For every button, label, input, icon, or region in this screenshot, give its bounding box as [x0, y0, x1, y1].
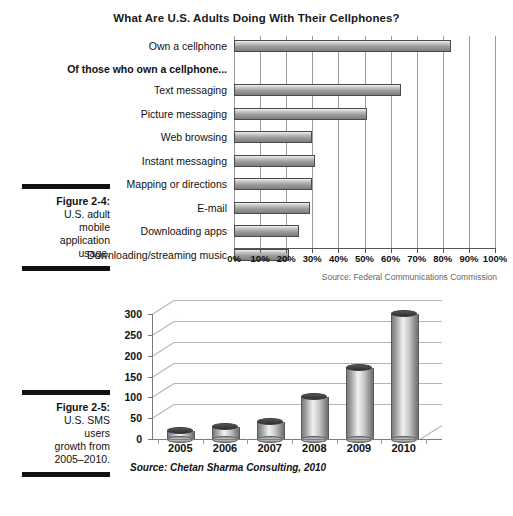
caption-rule-bottom: [22, 472, 110, 477]
chart2-x-tick: [247, 439, 248, 444]
chart1-source: Source: Federal Communications Commissio…: [322, 272, 497, 282]
chart2-y-tick: [148, 314, 152, 315]
chart2-x-label: 2008: [302, 442, 326, 454]
figure-2-5-line-0: U.S. SMS: [14, 414, 110, 427]
figure-2-4-line-0: U.S. adult: [14, 208, 110, 221]
chart2-x-tick: [426, 439, 427, 444]
chart2-bar: [257, 422, 285, 440]
chart2-bar: [301, 397, 329, 439]
chart1-tick-label: 40%: [329, 253, 348, 264]
chart1-x-ticks: 0%10%20%30%40%50%60%70%80%90%100%: [234, 248, 495, 260]
chart2-x-axis-line: [152, 439, 442, 440]
chart1-category-label: Web browsing: [161, 127, 227, 148]
chart2-y-axis-line: [152, 314, 153, 439]
chart2-x-label: 2006: [213, 442, 237, 454]
chart1-tick-label: 20%: [277, 253, 296, 264]
chart1-category-label: Own a cellphone: [149, 36, 227, 57]
chart1-title: What Are U.S. Adults Doing With Their Ce…: [0, 12, 513, 24]
figure-2-5-number: Figure 2-5:: [14, 401, 110, 414]
chart1-bar-row: Mapping or directions: [234, 174, 495, 195]
chart2-source: Source: Chetan Sharma Consulting, 2010: [130, 462, 326, 473]
figure-2-5-line-1: users: [14, 427, 110, 440]
chart2-y-tick: [148, 397, 152, 398]
chart1-bar-row: E-mail: [234, 198, 495, 219]
chart2-y-tick-label: 250: [124, 329, 148, 341]
chart1-section-row: Of those who own a cellphone...: [234, 59, 495, 80]
chart2-plot-area: [152, 314, 442, 439]
figure-2-4-number: Figure 2-4:: [14, 195, 110, 208]
chart1-tick-label: 80%: [433, 253, 452, 264]
chart1-category-label: Picture messaging: [141, 104, 227, 125]
chart1-gridline: [495, 36, 496, 248]
chart1-tick-label: 70%: [407, 253, 426, 264]
chart1-section-label: Of those who own a cellphone...: [67, 59, 227, 80]
chart2-x-tick: [337, 439, 338, 444]
chart2-x-label: 2005: [168, 442, 192, 454]
chart2-x-tick: [292, 439, 293, 444]
chart2-x-label: 2010: [391, 442, 415, 454]
chart1-bar-row: Instant messaging: [234, 151, 495, 172]
chart1-bar: [234, 202, 310, 214]
chart1-tick-label: 90%: [459, 253, 478, 264]
chart2-bar: [391, 314, 419, 439]
chart1-tick-label: 100%: [483, 253, 507, 264]
chart1-tick-label: 0%: [227, 253, 241, 264]
figure-2-4-caption: Figure 2-4: U.S. adult mobile applicatio…: [14, 184, 110, 271]
chart2-bar-cap: [257, 418, 283, 425]
chart2-x-tick: [381, 439, 382, 444]
chart2-bar-cap: [391, 310, 417, 317]
chart1-bar: [234, 108, 367, 120]
chart1-tick-label: 50%: [355, 253, 374, 264]
chart2-bar-cap: [301, 393, 327, 400]
chart2-x-label: 2009: [347, 442, 371, 454]
figure-2-5-line-3: 2005–2010.: [14, 453, 110, 466]
chart2-bar-cap: [167, 427, 193, 434]
chart2-y-tick-label: 200: [124, 350, 148, 362]
chart1-bar: [234, 40, 451, 52]
chart2-y-tick: [148, 377, 152, 378]
chart1-tick-label: 10%: [251, 253, 270, 264]
chart2-x-tick: [203, 439, 204, 444]
figure-2-4-chart: What Are U.S. Adults Doing With Their Ce…: [0, 0, 513, 288]
chart1-bar-row: Text messaging: [234, 80, 495, 101]
chart2-x-label: 2007: [257, 442, 281, 454]
document-page: What Are U.S. Adults Doing With Their Ce…: [0, 0, 513, 516]
chart2-y-tick-label: 100: [124, 391, 148, 403]
chart1-category-label: Instant messaging: [142, 151, 227, 172]
chart2-y-tick-label: 0: [136, 433, 148, 445]
chart2-bar-cap: [346, 364, 372, 371]
chart2-gridline: [174, 300, 442, 301]
chart1-tick-label: 30%: [303, 253, 322, 264]
caption-rule-top: [22, 390, 110, 395]
chart1-bar-row: Picture messaging: [234, 104, 495, 125]
chart1-bar: [234, 178, 312, 190]
chart2-y-tick: [148, 439, 152, 440]
chart2-y-tick: [148, 356, 152, 357]
chart1-bar-row: Web browsing: [234, 127, 495, 148]
figure-2-5-line-2: growth from: [14, 440, 110, 453]
chart1-bar: [234, 155, 315, 167]
chart1-category-label: Mapping or directions: [127, 174, 227, 195]
chart2-y-tick-label: 50: [130, 412, 148, 424]
chart1-category-label: E-mail: [197, 198, 227, 219]
chart1-tick-label: 60%: [381, 253, 400, 264]
figure-2-5-caption: Figure 2-5: U.S. SMS users growth from 2…: [14, 390, 110, 477]
figure-2-4-line-1: mobile: [14, 221, 110, 234]
figure-2-4-line-2: application: [14, 234, 110, 247]
caption-rule-top: [22, 184, 110, 189]
chart2-bar: [346, 368, 374, 439]
chart2-bar: [167, 431, 195, 439]
chart2-y-tick: [148, 335, 152, 336]
chart2-x-tick: [158, 439, 159, 444]
chart2-y-tick-label: 150: [124, 371, 148, 383]
chart1-category-label: Text messaging: [154, 80, 227, 101]
chart1-bar: [234, 84, 401, 96]
chart1-bar: [234, 225, 299, 237]
chart1-plot-area: Own a cellphoneOf those who own a cellph…: [234, 36, 495, 248]
chart1-bar: [234, 131, 312, 143]
chart2-bar-cap: [212, 423, 238, 430]
chart2-y-tick: [148, 418, 152, 419]
figure-2-5-chart: SMS subscribers Millions 050100150200250…: [0, 292, 513, 516]
chart1-bar-row: Downloading apps: [234, 221, 495, 242]
chart2-y-tick-label: 300: [124, 308, 148, 320]
